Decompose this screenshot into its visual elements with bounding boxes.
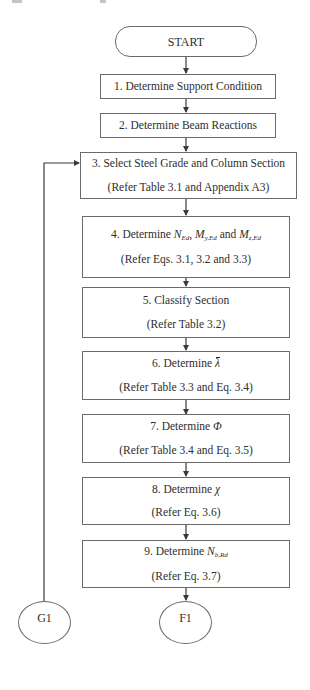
- lambda-bar-symbol: λ: [215, 358, 220, 370]
- chi-symbol: χ: [215, 483, 220, 495]
- start-terminator: START: [115, 26, 257, 57]
- symbol-n: N: [174, 228, 182, 240]
- step-4-box: 4. Determine NEd, My,Ed and Mz,Ed (Refer…: [82, 216, 290, 278]
- step-7-prefix: 7. Determine: [150, 420, 213, 432]
- step-9-reference: (Refer Eq. 3.7): [152, 571, 221, 583]
- connector-f1: F1: [159, 601, 212, 644]
- flowchart-canvas: START 1. Determine Support Condition 2. …: [0, 0, 310, 690]
- step-7-reference: (Refer Table 3.4 and Eq. 3.5): [119, 445, 253, 457]
- step-5-title: 5. Classify Section: [143, 295, 230, 307]
- step-6-title: 6. Determine λ: [152, 358, 220, 370]
- step-8-prefix: 8. Determine: [152, 483, 215, 495]
- symbol-my-ed: My,Ed: [195, 228, 217, 240]
- symbol-n: N: [207, 545, 215, 557]
- step-8-reference: (Refer Eq. 3.6): [152, 507, 221, 519]
- symbol-m: M: [239, 228, 249, 240]
- symbol-mz-ed: Mz,Ed: [239, 228, 261, 240]
- symbol-n-ed: NEd: [174, 228, 189, 240]
- symbol-m: M: [195, 228, 205, 240]
- step-4-prefix: 4. Determine: [111, 228, 174, 240]
- subscript-y-ed: y,Ed: [205, 234, 217, 242]
- subscript-b-rd: b,Rd: [215, 551, 228, 559]
- step-6-prefix: 6. Determine: [152, 357, 215, 369]
- separator: and: [217, 228, 239, 240]
- connector-g1: G1: [18, 601, 71, 644]
- step-1-title: 1. Determine Support Condition: [114, 81, 262, 93]
- step-9-box: 9. Determine Nb,Rd (Refer Eq. 3.7): [82, 540, 290, 588]
- start-label: START: [168, 36, 204, 48]
- step-4-reference: (Refer Eqs. 3.1, 3.2 and 3.3): [121, 254, 251, 266]
- step-6-box: 6. Determine λ (Refer Table 3.3 and Eq. …: [82, 351, 290, 400]
- connector-g1-label: G1: [37, 612, 52, 624]
- connector-f1-label: F1: [179, 612, 192, 624]
- step-7-title: 7. Determine Φ: [150, 421, 222, 433]
- step-3-box: 3. Select Steel Grade and Column Section…: [80, 152, 297, 199]
- step-3-title: 3. Select Steel Grade and Column Section: [92, 158, 285, 170]
- step-1-box: 1. Determine Support Condition: [100, 74, 276, 99]
- step-4-title: 4. Determine NEd, My,Ed and Mz,Ed: [111, 229, 261, 242]
- step-5-reference: (Refer Table 3.2): [147, 319, 226, 331]
- phi-symbol: Φ: [213, 420, 222, 432]
- symbol-nb-rd: Nb,Rd: [207, 545, 228, 557]
- subscript-z-ed: z,Ed: [249, 234, 261, 242]
- step-3-reference: (Refer Table 3.1 and Appendix A3): [108, 182, 270, 194]
- step-2-title: 2. Determine Beam Reactions: [119, 120, 257, 132]
- step-7-box: 7. Determine Φ (Refer Table 3.4 and Eq. …: [82, 414, 290, 463]
- step-9-title: 9. Determine Nb,Rd: [144, 546, 228, 559]
- step-8-title: 8. Determine χ: [152, 484, 220, 496]
- step-9-prefix: 9. Determine: [144, 545, 207, 557]
- step-2-box: 2. Determine Beam Reactions: [100, 113, 276, 138]
- step-6-reference: (Refer Table 3.3 and Eq. 3.4): [119, 382, 253, 394]
- step-5-box: 5. Classify Section (Refer Table 3.2): [82, 287, 290, 338]
- step-8-box: 8. Determine χ (Refer Eq. 3.6): [82, 477, 290, 525]
